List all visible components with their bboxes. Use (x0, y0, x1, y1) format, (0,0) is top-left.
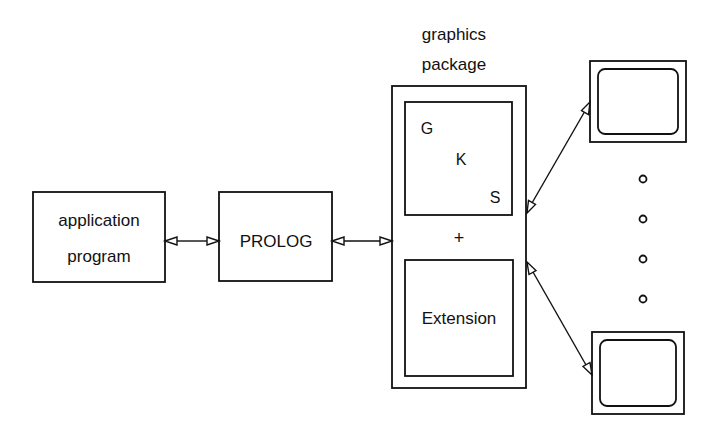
ellipsis-dots (640, 176, 647, 303)
arrowhead-icon (380, 237, 392, 245)
application-program-label-line1: application (58, 211, 139, 230)
arrow-application-prolog (165, 237, 219, 245)
arrowhead-icon (583, 363, 592, 376)
application-program-label-line2: program (67, 247, 130, 266)
arrowhead-icon (332, 237, 344, 245)
arrowhead-icon (207, 237, 219, 245)
gks-letter-k: K (456, 151, 467, 168)
graphics-package-node: G K S + Extension (392, 86, 526, 388)
gks-letter-s: S (490, 189, 501, 206)
application-program-node: application program (33, 192, 165, 282)
arrowhead-icon (165, 237, 177, 245)
arrowhead-icon (527, 201, 536, 214)
arrow-graphics-monitor-bottom (527, 262, 592, 375)
dot-icon (640, 296, 647, 303)
dot-icon (640, 256, 647, 263)
arrowhead-icon (582, 102, 591, 115)
monitor-bottom-icon (592, 332, 684, 414)
diagram-canvas: graphics package application program PRO… (0, 0, 711, 430)
prolog-node: PROLOG (219, 192, 332, 281)
extension-label: Extension (422, 309, 497, 328)
dot-icon (640, 216, 647, 223)
gks-letter-g: G (421, 120, 433, 137)
monitor-top-icon (590, 61, 686, 142)
dot-icon (640, 176, 647, 183)
graphics-package-title-line2: package (422, 55, 486, 74)
arrow-prolog-graphics (332, 237, 392, 245)
graphics-package-title-line1: graphics (422, 25, 486, 44)
arrow-graphics-monitor-top (527, 102, 590, 213)
prolog-label: PROLOG (240, 232, 313, 251)
application-program-box (33, 192, 165, 282)
plus-sign: + (454, 228, 465, 248)
arrowhead-icon (527, 262, 536, 275)
